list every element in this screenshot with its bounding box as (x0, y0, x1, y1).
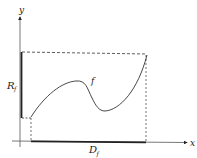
svg-text:f: f (13, 85, 18, 93)
range-label: R f (6, 80, 18, 93)
domain-label: D f (88, 144, 101, 158)
domain-range-diagram: y x f R f D f (0, 0, 197, 158)
y-axis-label: y (18, 5, 25, 15)
x-axis-label: x (190, 138, 195, 148)
domain-bar (31, 141, 146, 142)
top-dashed-guide (22, 52, 147, 54)
function-curve (31, 55, 147, 117)
function-label: f (90, 76, 96, 86)
svg-text:f: f (96, 150, 101, 158)
